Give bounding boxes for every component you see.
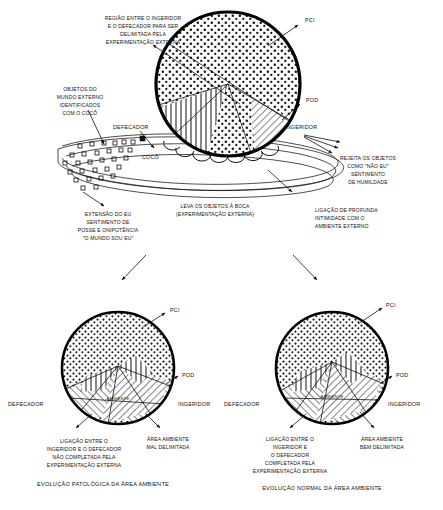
extensao-line-2: SENTIMENTO DE [87, 219, 130, 225]
top-label-ingeridor: INGERIDOR [285, 124, 317, 130]
top-diagram: REGIÃO ENTRE O INGERIDOR E O DEFECADOR P… [57, 12, 397, 241]
br-ligacao-line-1: LIGAÇÃO ENTRE O [266, 436, 314, 442]
regiao-line-2: E O DEFECADOR PARA SER [108, 23, 179, 29]
regiao-line-3: DELIMITADA PELA [120, 31, 166, 37]
br-ligacao-line-2: INGERIDOR E [273, 444, 308, 450]
top-annotation-objetos: OBJETOS DO MUNDO EXTERNO IDENTIFICADOS C… [57, 86, 103, 116]
top-annotation-extensao: EXTENSÃO DO EU SENTIMENTO DE POSSE E ONI… [78, 211, 139, 241]
rejeita-line-2: COMO "NÃO EU" [347, 163, 389, 169]
normal-diagram: AMBIENTE PCI POD INGERIDOR DEFECADOR LIG… [224, 302, 420, 491]
regiao-line-4: EXPERIMENTAÇÃO EXTERNA [106, 39, 181, 45]
leva-line-1: LEVA OS OBJETOS À BOCA [181, 203, 250, 209]
bl-leader-area [146, 414, 160, 428]
ligacao-line-1: LIGAÇÃO DE PROFUNDA [315, 207, 378, 213]
ligacao-line-2: INTIMIDADE COM O [315, 215, 365, 221]
br-annotation-area: ÁREA AMBIENTE BEM DELIMITADA [360, 436, 404, 450]
br-label-pci: PCI [386, 302, 396, 308]
top-annotation-regiao: REGIÃO ENTRE O INGERIDOR E O DEFECADOR P… [105, 15, 182, 45]
objetos-line-4: COM O COCÔ [63, 110, 98, 116]
ligacao-line-3: AMBIENTE EXTERNO [315, 223, 369, 229]
rejeita-line-4: DE HUMILDADE [348, 179, 388, 185]
leva-line-2: (EXPERIMENTAÇÃO EXTERNA) [176, 211, 254, 217]
rejeita-line-1: REJEITA OS OBJETOS [340, 155, 396, 161]
bl-annotation-area: ÁREA AMBIENTE MAL DELIMITADA [146, 436, 190, 450]
br-leader-area [360, 412, 374, 428]
objetos-line-1: OBJETOS DO [63, 86, 97, 92]
br-area-line-1: ÁREA AMBIENTE [361, 436, 403, 442]
top-annotation-rejeita: REJEITA OS OBJETOS COMO "NÃO EU" SENTIME… [340, 155, 396, 185]
extensao-line-3: POSSE E ONIPOTÊNCIA [78, 226, 139, 233]
bl-ligacao-line-2: INGERIDOR E O DEFECADOR [47, 446, 122, 452]
leader-extensao [83, 192, 104, 206]
branch-arrows [122, 255, 317, 280]
bl-annotation-ligacao: LIGAÇÃO ENTRE O INGERIDOR E O DEFECADOR … [47, 438, 122, 468]
bl-leader-ligacao [76, 414, 92, 428]
extensao-line-4: "O MUNDO SOU EU" [83, 235, 134, 241]
diagram-canvas: REGIÃO ENTRE O INGERIDOR E O DEFECADOR P… [0, 0, 443, 510]
br-leader-ligacao [290, 414, 306, 428]
bl-label-ingeridor: INGERIDOR [178, 401, 210, 407]
top-label-defecador: DEFECADOR [113, 124, 149, 130]
branch-arrow-right [293, 255, 317, 280]
bl-area-line-2: MAL DELIMITADA [146, 444, 190, 450]
rejeita-line-3: SENTIMENTO [351, 171, 385, 177]
pathological-diagram: AMBIENTE PCI POD INGERIDOR DEFECADOR LIG… [8, 307, 210, 487]
br-label-defecador: DEFECADOR [224, 401, 260, 407]
top-annotation-ligacao: LIGAÇÃO DE PROFUNDA INTIMIDADE COM O AMB… [315, 207, 378, 229]
bl-ligacao-line-4: EXPERIMENTAÇÃO EXTERNA [47, 462, 122, 468]
bl-caption: EVOLUÇÃO PATOLÓGICA DA ÁREA AMBIENTE [37, 481, 169, 487]
br-leader-pci [358, 308, 382, 324]
br-label-ingeridor: INGERIDOR [388, 401, 420, 407]
objetos-line-2: MUNDO EXTERNO [57, 94, 103, 100]
diagram-root: REGIÃO ENTRE O INGERIDOR E O DEFECADOR P… [0, 0, 443, 510]
bl-ligacao-line-3: NÃO COMPLETADA PELA [52, 454, 116, 460]
bl-ligacao-line-1: LIGAÇÃO ENTRE O [60, 438, 108, 444]
external-objects-squares [63, 140, 135, 190]
top-label-pod: POD [306, 97, 318, 103]
bl-label-pci: PCI [170, 307, 180, 313]
bl-label-pod: POD [182, 372, 194, 378]
top-annotation-leva: LEVA OS OBJETOS À BOCA (EXPERIMENTAÇÃO E… [176, 203, 254, 217]
objetos-line-3: IDENTIFICADOS [60, 102, 101, 108]
regiao-line-1: REGIÃO ENTRE O INGERIDOR [105, 15, 182, 21]
bl-area-line-1: ÁREA AMBIENTE [147, 436, 189, 442]
top-label-pci: PCI [305, 17, 315, 23]
bl-label-defecador: DEFECADOR [8, 401, 44, 407]
br-ligacao-line-3: O DEFECADOR [271, 452, 310, 458]
top-label-coco: COCÔ [142, 154, 159, 160]
br-caption: EVOLUÇÃO NORMAL DA ÁREA AMBIENTE [262, 485, 382, 491]
bl-label-ambiente: AMBIENTE [106, 396, 129, 401]
br-area-line-2: BEM DELIMITADA [360, 444, 404, 450]
branch-arrow-left [122, 255, 146, 280]
br-ligacao-line-5: EXPERIMENTAÇÃO EXTERNA [253, 468, 328, 474]
extensao-line-1: EXTENSÃO DO EU [85, 211, 132, 217]
br-annotation-ligacao: LIGAÇÃO ENTRE O INGERIDOR E O DEFECADOR … [253, 436, 328, 474]
br-label-ambiente: AMBIENTE [320, 394, 343, 399]
br-label-pod: POD [396, 372, 408, 378]
br-ligacao-line-4: COMPLETADA PELA [265, 460, 316, 466]
